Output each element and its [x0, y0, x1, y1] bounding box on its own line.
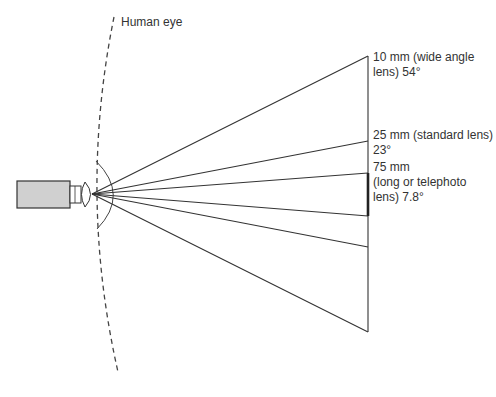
standard-lens-label: 25 mm (standard lens) 23° — [373, 128, 493, 158]
ray-telephoto-top — [92, 173, 368, 194]
telephoto-lens-line1: 75 mm — [373, 160, 466, 175]
telephoto-lens-label: 75 mm (long or telephoto lens) 7.8° — [373, 160, 466, 205]
human-eye-label: Human eye — [121, 15, 182, 30]
standard-lens-line1: 25 mm (standard lens) — [373, 128, 493, 143]
lens-barrel — [70, 186, 81, 203]
wide-angle-line1: 10 mm (wide angle — [373, 50, 474, 65]
wide-angle-label: 10 mm (wide angle lens) 54° — [373, 50, 474, 80]
telephoto-lens-line3: lens) 7.8° — [373, 190, 466, 205]
ray-telephoto-bottom — [92, 194, 368, 216]
field-of-view-rays — [92, 56, 368, 332]
ray-standard-top — [92, 141, 368, 194]
ray-standard-bottom — [92, 194, 368, 247]
ray-wide-bottom — [92, 194, 368, 332]
standard-lens-line2: 23° — [373, 143, 493, 158]
lens-element — [82, 182, 91, 207]
human-eye-text: Human eye — [121, 15, 182, 30]
wide-angle-line2: lens) 54° — [373, 65, 474, 80]
camera-body — [17, 181, 70, 208]
ray-wide-top — [92, 56, 368, 194]
telephoto-lens-line2: (long or telephoto — [373, 175, 466, 190]
